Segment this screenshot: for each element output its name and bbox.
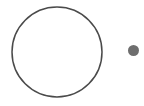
small-filled-dot — [128, 45, 139, 56]
canvas-background — [0, 0, 144, 106]
figure-canvas — [0, 0, 144, 106]
figure-root — [0, 0, 144, 106]
